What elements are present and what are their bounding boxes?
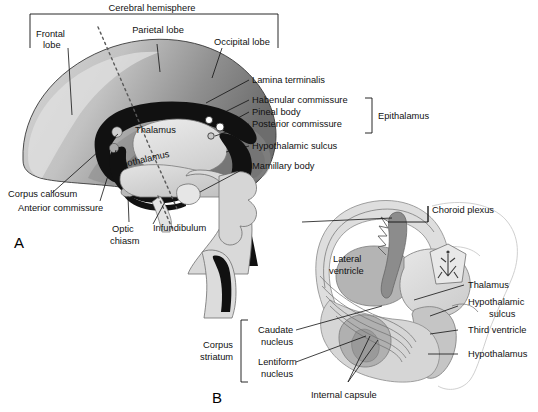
frontal-lobe-label-line2: lobe xyxy=(43,40,61,50)
corpus-callosum-label: Corpus callosum xyxy=(8,189,77,199)
corpus-striatum-label-line2: striatum xyxy=(200,352,233,362)
corpus-striatum-label-line1: Corpus xyxy=(203,340,233,350)
posterior-commissure-marker xyxy=(208,133,214,139)
anatomical-figure: Cerebral hemisphere Frontal lobe Parieta… xyxy=(0,0,538,412)
optic-chiasm-label-line1: Optic xyxy=(112,224,134,234)
anterior-commissure-label: Anterior commissure xyxy=(18,203,103,213)
lamina-terminalis-label: Lamina terminalis xyxy=(252,75,325,85)
corpus-striatum-bracket xyxy=(241,320,248,382)
thalamus-label-b: Thalamus xyxy=(468,280,509,290)
epithalamus-label: Epithalamus xyxy=(378,111,430,121)
panel-b-letter: B xyxy=(212,389,222,406)
anterior-commissure-marker xyxy=(112,127,122,137)
thalamus-label-a: Thalamus xyxy=(135,125,176,135)
habenular-commissure-label: Habenular commissure xyxy=(252,95,348,105)
pineal-body-label: Pineal body xyxy=(252,107,301,117)
pineal-body-marker xyxy=(216,123,224,131)
cerebral-hemisphere-label: Cerebral hemisphere xyxy=(109,3,196,13)
caudate-nucleus-label-line2: nucleus xyxy=(261,337,293,347)
internal-capsule-label: Internal capsule xyxy=(311,390,377,400)
mamillary-body-label: Mamillary body xyxy=(252,161,315,171)
interventricular-foramen xyxy=(430,244,466,284)
hypothalamic-sulcus-label-b-line1: Hypothalamic xyxy=(468,297,525,307)
epithalamus-bracket xyxy=(365,98,372,133)
lentiform-nucleus-label-line1: Lentiform xyxy=(258,357,297,367)
hypothalamic-sulcus-label-b-line2: sulcus xyxy=(489,309,516,319)
lateral-ventricle-label-line2: ventricle xyxy=(329,266,364,276)
lateral-ventricle-label-line1: Lateral xyxy=(333,254,361,264)
infundibulum-label: Infundibulum xyxy=(153,223,206,233)
lentiform-nucleus-label-line2: nucleus xyxy=(261,369,293,379)
posterior-commissure-label: Posterior commissure xyxy=(252,119,342,129)
third-ventricle-label: Third ventricle xyxy=(468,325,526,335)
caudate-nucleus-label-line1: Caudate xyxy=(258,325,293,335)
habenular-commissure-marker xyxy=(205,116,212,123)
hypothalamic-sulcus-label-a: Hypothalamic sulcus xyxy=(252,141,338,151)
choroid-plexus-label: Choroid plexus xyxy=(432,205,494,215)
panel-a-letter: A xyxy=(14,234,24,251)
hypothalamus-label-b: Hypothalamus xyxy=(468,349,528,359)
optic-chiasm-label-line2: chiasm xyxy=(110,236,140,246)
occipital-lobe-label: Occipital lobe xyxy=(214,37,270,47)
parietal-lobe-label: Parietal lobe xyxy=(132,25,184,35)
figure-canvas: Cerebral hemisphere Frontal lobe Parieta… xyxy=(0,0,538,412)
frontal-lobe-label-line1: Frontal xyxy=(36,29,65,39)
mamillary-body-marker xyxy=(177,184,201,205)
